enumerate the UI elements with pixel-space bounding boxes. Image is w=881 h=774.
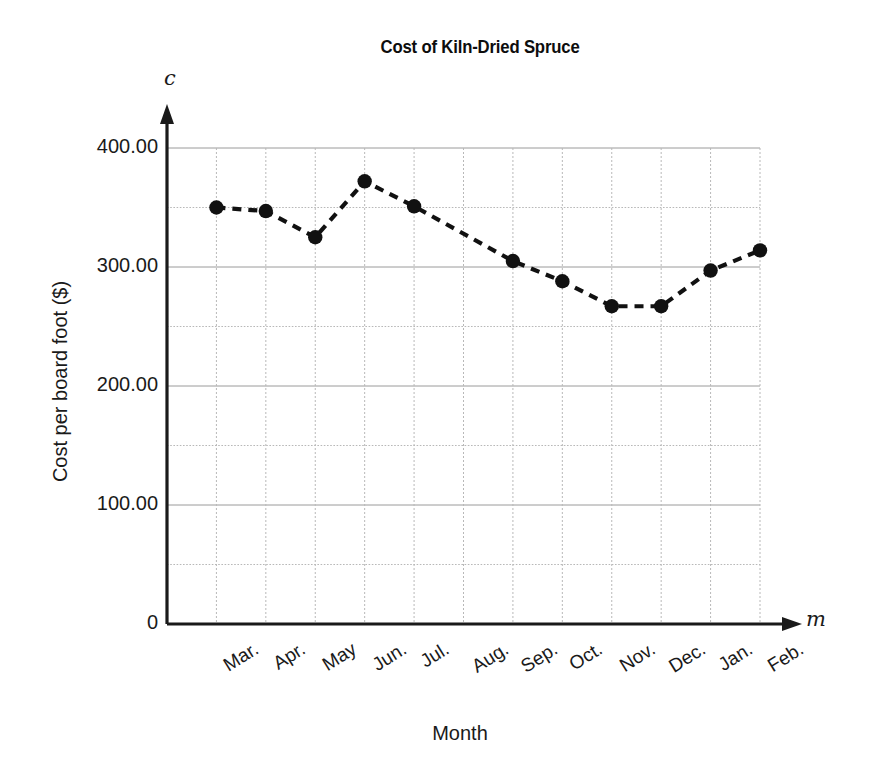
axis-lines	[160, 104, 802, 631]
plot-area	[0, 0, 881, 774]
data-line	[216, 181, 760, 306]
chart-container: Cost of Kiln-Dried Spruce c m Cost per b…	[0, 0, 881, 774]
